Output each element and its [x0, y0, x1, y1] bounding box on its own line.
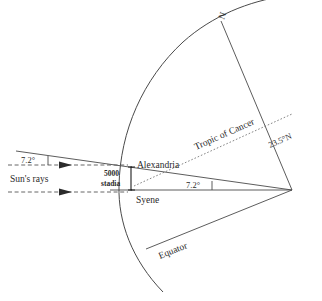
north-pole-label: N	[217, 11, 229, 21]
stadia-bracket-left	[131, 167, 135, 190]
diagram-canvas: N 7.2° Sun's rays 5000 stadia Alexandria…	[0, 0, 322, 301]
equator-radius-line	[146, 190, 292, 249]
stadia-unit-label: stadia	[101, 179, 120, 188]
tropic-latitude-label: 23.5°N	[267, 131, 293, 150]
sun-ray-upper-arrowhead	[59, 161, 72, 168]
sun-ray-lower-arrowhead	[59, 188, 72, 195]
center-angle-label: 7.2°	[186, 180, 200, 190]
eratosthenes-diagram: N 7.2° Sun's rays 5000 stadia Alexandria…	[0, 0, 322, 301]
stadia-value-label: 5000	[104, 169, 119, 178]
syene-label: Syene	[136, 195, 159, 205]
equator-label: Equator	[157, 240, 189, 261]
tropic-of-cancer-line	[134, 114, 292, 186]
polar-axis-line	[221, 21, 292, 190]
sun-rays-label: Sun's rays	[10, 174, 49, 184]
tropic-of-cancer-label: Tropic of Cancer	[193, 116, 257, 152]
alexandria-label: Alexandria	[137, 160, 180, 170]
sun-angle-label: 7.2°	[21, 155, 35, 165]
alexandria-radius-line	[16, 151, 292, 190]
